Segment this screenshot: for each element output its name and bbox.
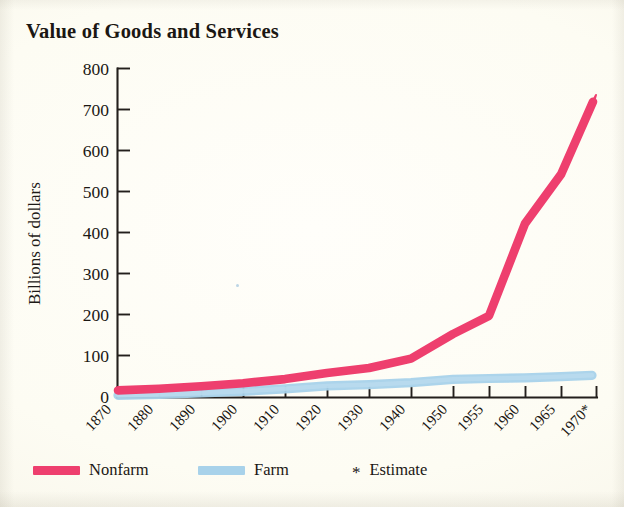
y-tick-label: 600	[83, 141, 110, 161]
chart-legend: Nonfarm Farm * Estimate	[0, 458, 624, 488]
y-tick-label: 400	[83, 223, 110, 243]
chart-plot: Billions of dollars 0 100 200 300 400 50…	[0, 0, 624, 470]
y-tick-label: 100	[83, 346, 110, 366]
legend-item-estimate: * Estimate	[352, 460, 427, 480]
x-tick-label: 1910	[250, 401, 282, 434]
x-axis-tick-labels: 1870 1880 1890 1900 1910 1920 1930 1940 …	[82, 401, 594, 439]
y-tick-label: 200	[83, 305, 110, 325]
x-tick-label: 1955	[454, 401, 486, 434]
scan-speck	[236, 284, 239, 287]
x-tick-label: 1900	[208, 401, 240, 434]
x-tick-label: 1965	[526, 401, 558, 434]
x-tick-label: 1970*	[557, 401, 594, 439]
x-tick-label: 1950	[418, 401, 450, 434]
x-tick-label: 1920	[292, 401, 324, 434]
y-tick-label: 500	[83, 182, 110, 202]
x-tick-label: 1870	[82, 401, 114, 434]
y-tick-label: 800	[83, 59, 110, 79]
y-axis-ticks	[117, 69, 130, 356]
legend-label-estimate: Estimate	[370, 460, 428, 480]
y-axis-label: Billions of dollars	[25, 182, 44, 305]
x-tick-label: 1890	[166, 401, 198, 434]
legend-swatch-farm	[198, 466, 245, 475]
x-tick-label: 1880	[124, 401, 156, 434]
legend-swatch-nonfarm	[33, 466, 80, 475]
asterisk-icon: *	[352, 464, 361, 481]
y-tick-label: 300	[83, 264, 110, 284]
legend-label-nonfarm: Nonfarm	[89, 460, 149, 480]
series-nonfarm	[118, 95, 596, 390]
legend-item-farm[interactable]: Farm	[198, 460, 289, 480]
legend-item-nonfarm[interactable]: Nonfarm	[33, 460, 149, 480]
x-tick-label: 1940	[376, 401, 408, 434]
legend-label-farm: Farm	[254, 460, 289, 480]
y-tick-label: 700	[83, 100, 110, 120]
x-tick-label: 1960	[490, 401, 522, 434]
chart-page: Value of Goods and Services Billions of …	[0, 0, 624, 507]
x-tick-label: 1930	[334, 401, 366, 434]
